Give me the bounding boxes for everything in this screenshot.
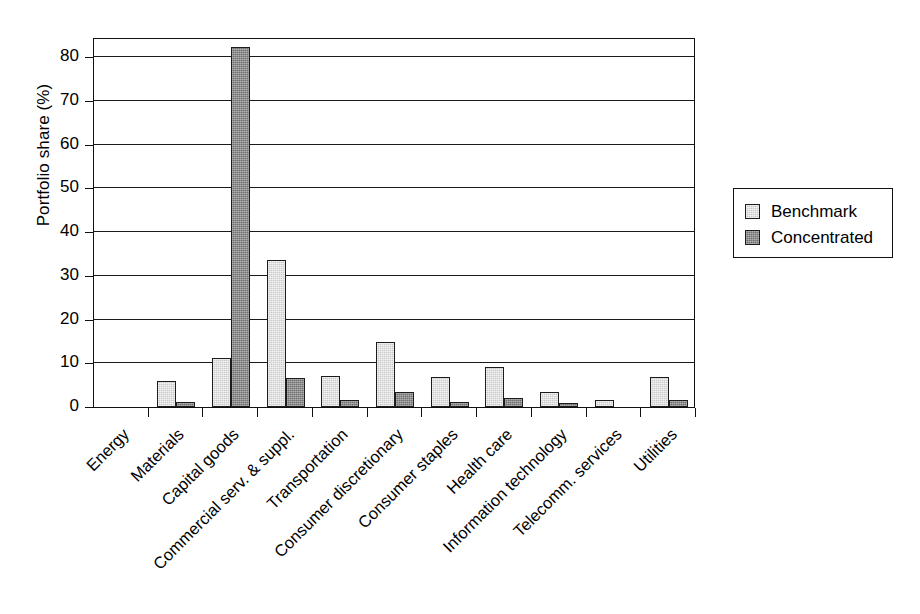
x-axis-category-label: Consumer staples xyxy=(354,425,461,532)
bar-benchmark[interactable] xyxy=(540,392,559,407)
bar-benchmark[interactable] xyxy=(157,381,176,407)
y-axis-tick-label: 60 xyxy=(60,135,79,152)
gridline xyxy=(94,100,694,101)
x-axis-category-label: Utilities xyxy=(629,425,680,476)
y-axis-tick-mark xyxy=(85,57,93,58)
bar-benchmark[interactable] xyxy=(212,358,231,407)
bar-concentrated[interactable] xyxy=(176,402,195,407)
gridline xyxy=(94,56,694,57)
x-axis-tick-mark xyxy=(257,408,258,417)
bar-concentrated[interactable] xyxy=(231,47,250,407)
y-axis-tick-mark xyxy=(85,276,93,277)
bar-concentrated[interactable] xyxy=(669,400,688,407)
x-axis-tick-mark xyxy=(148,408,149,417)
y-axis-tick-label: 40 xyxy=(60,222,79,239)
legend-label: Benchmark xyxy=(771,203,857,220)
y-axis-tick-label: 30 xyxy=(60,266,79,283)
bar-concentrated[interactable] xyxy=(395,392,414,407)
bar-benchmark[interactable] xyxy=(595,400,614,407)
y-axis-tick-label: 70 xyxy=(60,91,79,108)
y-axis-tick-mark xyxy=(85,407,93,408)
y-axis-tick-mark xyxy=(85,363,93,364)
y-axis-title: Portfolio share (%) xyxy=(29,45,59,265)
legend-item[interactable]: Concentrated xyxy=(745,224,892,250)
legend-swatch-benchmark xyxy=(745,204,760,219)
y-axis-tick-mark xyxy=(85,232,93,233)
bar-concentrated[interactable] xyxy=(559,403,578,407)
gridline xyxy=(94,144,694,145)
bar-concentrated[interactable] xyxy=(340,400,359,407)
y-axis-tick-mark xyxy=(85,188,93,189)
gridline xyxy=(94,187,694,188)
x-axis-tick-mark xyxy=(476,408,477,417)
y-axis-tick-label: 0 xyxy=(70,397,79,414)
legend-label: Concentrated xyxy=(771,229,873,246)
x-axis-tick-mark xyxy=(367,408,368,417)
x-axis-category-label: Telecomm. services xyxy=(510,425,626,541)
x-axis-category-label: Energy xyxy=(83,425,133,475)
bar-benchmark[interactable] xyxy=(321,376,340,407)
y-axis-tick-label: 80 xyxy=(60,47,79,64)
bar-chart-figure: Portfolio share (%) 01020304050607080 En… xyxy=(0,0,920,614)
gridline xyxy=(94,275,694,276)
x-axis-tick-mark xyxy=(202,408,203,417)
gridline xyxy=(94,231,694,232)
bar-benchmark[interactable] xyxy=(485,367,504,407)
x-axis-tick-mark xyxy=(531,408,532,417)
y-axis-tick-mark xyxy=(85,145,93,146)
chart-legend: BenchmarkConcentrated xyxy=(733,188,893,258)
x-axis-tick-mark xyxy=(695,408,696,417)
y-axis-tick-label: 20 xyxy=(60,310,79,327)
x-axis-tick-mark xyxy=(312,408,313,417)
bar-benchmark[interactable] xyxy=(650,377,669,407)
x-axis-tick-mark xyxy=(640,408,641,417)
legend-item[interactable]: Benchmark xyxy=(745,198,892,224)
bar-concentrated[interactable] xyxy=(504,398,523,407)
y-axis-tick-label: 50 xyxy=(60,178,79,195)
bar-concentrated[interactable] xyxy=(286,378,305,407)
gridline xyxy=(94,319,694,320)
x-axis-tick-mark xyxy=(421,408,422,417)
bar-benchmark[interactable] xyxy=(376,342,395,407)
x-axis-tick-mark xyxy=(586,408,587,417)
bar-benchmark[interactable] xyxy=(267,260,286,407)
y-axis-tick-label: 10 xyxy=(60,353,79,370)
plot-area xyxy=(93,38,695,408)
y-axis-tick-mark xyxy=(85,101,93,102)
bar-concentrated[interactable] xyxy=(450,402,469,407)
legend-swatch-concentrated xyxy=(745,230,760,245)
y-axis-tick-mark xyxy=(85,320,93,321)
bar-benchmark[interactable] xyxy=(431,377,450,407)
